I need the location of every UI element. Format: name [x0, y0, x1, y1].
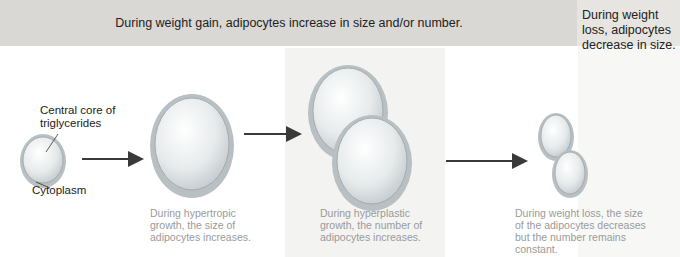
- weight-loss-caption: During weight loss, the size of the adip…: [515, 207, 646, 255]
- adipocyte-pair-small: [538, 113, 588, 198]
- adipocyte-small: [20, 134, 66, 188]
- hypertrophic-caption: During hypertropic growth, the size of a…: [150, 207, 251, 243]
- adipocyte-enlarged: [150, 94, 234, 198]
- triglyceride-core-label: Central core of triglycerides: [40, 104, 115, 130]
- cytoplasm-label: Cytoplasm: [32, 184, 86, 197]
- adipocyte-pair-large: [308, 65, 412, 211]
- hyperplastic-caption: During hyperplastic growth, the number o…: [320, 207, 422, 243]
